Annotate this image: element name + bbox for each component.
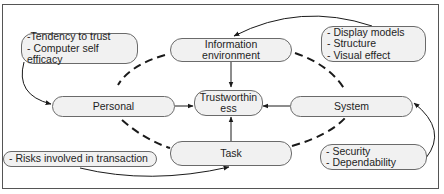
node-task: Task [170, 141, 292, 166]
node-personal: Personal [52, 96, 175, 117]
node-task-label: Task [220, 148, 242, 160]
note-personal-line-2: - Computer self efficacy [27, 43, 137, 66]
node-info-line-2: environment [202, 50, 260, 62]
note-system-line-2: - Dependability [326, 157, 396, 169]
note-info-line-3: - Visual effect [327, 50, 405, 62]
node-trust-line-2: ess [200, 103, 257, 115]
node-personal-label: Personal [93, 101, 134, 113]
note-information-environment: - Display models - Structure - Visual ef… [321, 26, 426, 62]
node-information-environment: Information environment [170, 38, 292, 62]
node-system: System [290, 96, 413, 117]
note-personal: -Tendency to trust - Computer self effic… [21, 33, 138, 64]
note-task: - Risks involved in transaction [3, 151, 157, 167]
node-system-label: System [334, 101, 369, 113]
node-trustworthiness: Trustworthin ess [194, 90, 263, 116]
note-task-line-1: - Risks involved in transaction [9, 153, 148, 165]
note-system: - Security - Dependability [320, 144, 427, 170]
